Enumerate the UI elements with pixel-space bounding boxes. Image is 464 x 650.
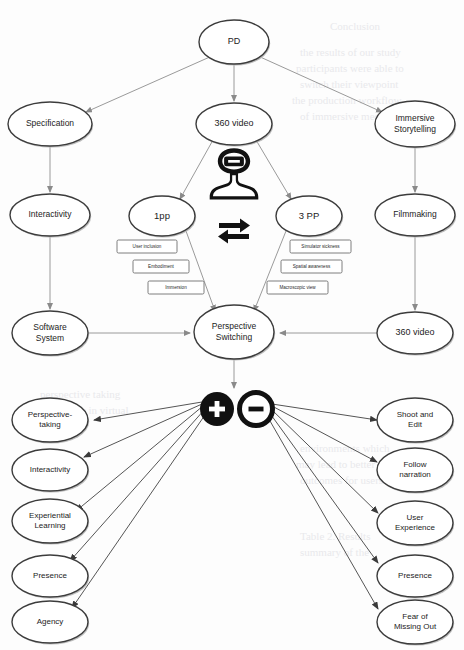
node-label: Follow bbox=[403, 460, 426, 469]
attribute-box-label: User inclusion bbox=[133, 244, 162, 249]
node-label: Experiential bbox=[29, 511, 71, 520]
node-label: Experience bbox=[395, 523, 436, 532]
attribute-box-label: Simulator sickness bbox=[301, 244, 340, 249]
node-shoot-and-edit[interactable]: Shoot andEdit bbox=[377, 398, 454, 444]
node-label: PD bbox=[228, 36, 241, 46]
concept-map-diagram: Conclusionthe results of our studypartic… bbox=[0, 0, 464, 650]
attribute-box-label: Macroscopic view bbox=[279, 285, 316, 290]
node-label: Interactivity bbox=[30, 465, 70, 474]
node-label: Storytelling bbox=[394, 124, 436, 134]
node-video360-bottom[interactable]: 360 video bbox=[377, 312, 454, 356]
node-label: 3 PP bbox=[299, 210, 320, 221]
node-interactivity-outcome[interactable]: Interactivity bbox=[12, 449, 89, 493]
attribute-box-macroscopic-view[interactable]: Macroscopic view bbox=[267, 281, 328, 294]
node-root-pd[interactable]: PD bbox=[199, 20, 270, 66]
node-label: Filmmaking bbox=[393, 209, 437, 219]
attribute-box-immersion[interactable]: Immersion bbox=[148, 281, 204, 294]
attribute-box-label: Immersion bbox=[165, 285, 187, 290]
node-label: Perspective- bbox=[28, 410, 73, 419]
node-label: narration bbox=[399, 470, 431, 479]
node-filmmaking[interactable]: Filmmaking bbox=[375, 194, 456, 238]
minus-circle-icon[interactable] bbox=[240, 393, 273, 426]
node-label: Edit bbox=[408, 420, 423, 429]
vr-headset-user-icon bbox=[210, 148, 259, 199]
node-presence-right[interactable]: Presence bbox=[377, 555, 454, 599]
node-label: User bbox=[407, 513, 424, 522]
attribute-box-embodiment[interactable]: Embodiment bbox=[133, 260, 189, 273]
node-fear-of-missing-out[interactable]: Fear ofMissing Out bbox=[377, 600, 454, 646]
node-third-person[interactable]: 3 PP bbox=[276, 196, 343, 238]
node-video360-top[interactable]: 360 video bbox=[196, 103, 273, 147]
attribute-box-label: Embodiment bbox=[148, 264, 175, 269]
node-perspective-taking[interactable]: Perspective-taking bbox=[12, 398, 89, 444]
node-label: Software bbox=[33, 322, 67, 332]
node-label: Specification bbox=[26, 118, 74, 128]
node-agency[interactable]: Agency bbox=[12, 601, 89, 645]
bidirectional-swap-icon bbox=[218, 219, 250, 244]
node-label: Presence bbox=[398, 571, 432, 580]
node-label: Perspective bbox=[212, 321, 257, 331]
node-label: Agency bbox=[37, 617, 64, 626]
node-label: 360 video bbox=[395, 327, 434, 337]
node-experiential-learning[interactable]: ExperientialLearning bbox=[12, 499, 89, 545]
node-interactivity-left[interactable]: Interactivity bbox=[10, 194, 91, 238]
node-label: Presence bbox=[33, 571, 67, 580]
node-label: Switching bbox=[216, 332, 253, 342]
node-first-person[interactable]: 1pp bbox=[129, 196, 196, 238]
node-user-experience[interactable]: UserExperience bbox=[377, 501, 454, 547]
node-presence-left[interactable]: Presence bbox=[12, 555, 89, 599]
node-label: Shoot and bbox=[397, 410, 433, 419]
attribute-box-label: Spatial awareness bbox=[293, 264, 331, 269]
attribute-box-spatial-awareness[interactable]: Spatial awareness bbox=[281, 260, 342, 273]
node-label: 360 video bbox=[214, 118, 253, 128]
node-label: System bbox=[36, 333, 64, 343]
node-label: Learning bbox=[34, 521, 65, 530]
attribute-box-simulator-sickness[interactable]: Simulator sickness bbox=[290, 240, 351, 253]
node-perspective-switching[interactable]: PerspectiveSwitching bbox=[194, 305, 275, 361]
node-label: 1pp bbox=[154, 210, 170, 221]
node-layer: PDSpecification360 videoImmersiveStoryte… bbox=[0, 0, 464, 650]
node-immersive-storytelling[interactable]: ImmersiveStorytelling bbox=[375, 101, 456, 149]
node-specification[interactable]: Specification bbox=[8, 102, 93, 148]
node-software-system[interactable]: SoftwareSystem bbox=[12, 311, 89, 357]
node-follow-narration[interactable]: Follownarration bbox=[377, 448, 454, 494]
node-label: Immersive bbox=[395, 113, 434, 123]
node-label: Fear of bbox=[402, 612, 428, 621]
plus-circle-icon[interactable] bbox=[200, 392, 234, 426]
node-label: taking bbox=[39, 420, 60, 429]
node-label: Interactivity bbox=[29, 209, 73, 219]
node-label: Missing Out bbox=[394, 622, 437, 631]
attribute-box-user-inclusion[interactable]: User inclusion bbox=[117, 240, 177, 253]
